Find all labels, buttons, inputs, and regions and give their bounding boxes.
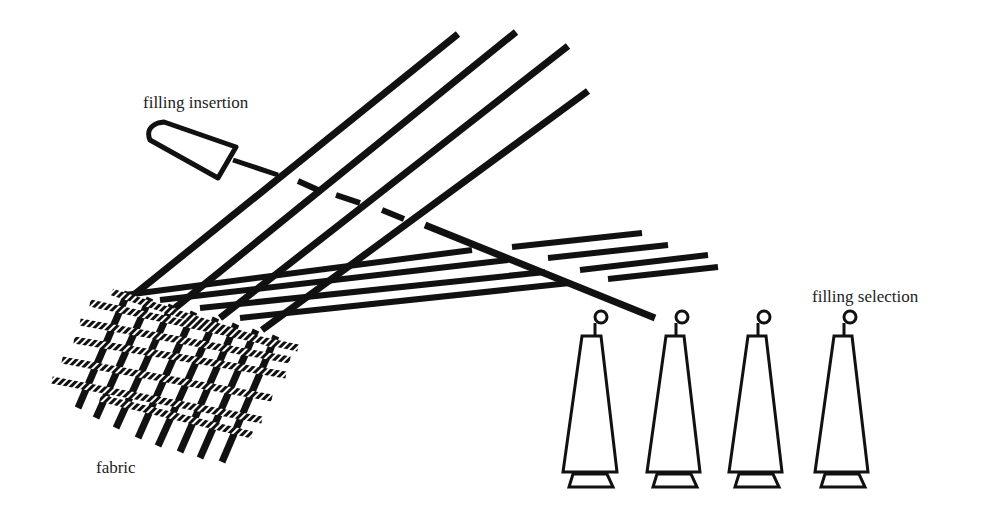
upper-warp-yarns: [130, 32, 588, 330]
filling-insertion-label: filling insertion: [143, 93, 249, 112]
loom-diagram: filling insertion filling selection fabr…: [0, 0, 987, 524]
filling-selection-label: filling selection: [812, 287, 919, 306]
shuttle-icon: [149, 122, 278, 178]
filling-package-1[interactable]: [563, 311, 617, 487]
filling-package-3[interactable]: [729, 311, 782, 487]
filling-package-4[interactable]: [815, 311, 868, 487]
filling-yarn: [425, 225, 655, 318]
filling-package-2[interactable]: [647, 311, 700, 487]
fabric-label: fabric: [96, 458, 136, 477]
